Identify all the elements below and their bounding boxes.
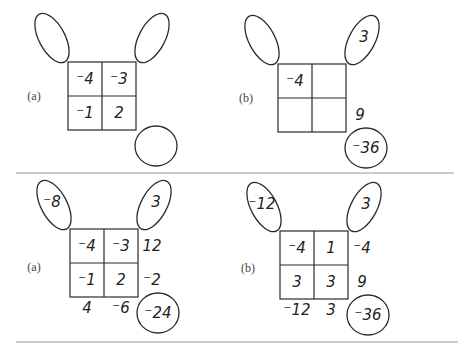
grid-cell: 3 bbox=[326, 273, 336, 291]
oval-left bbox=[28, 8, 76, 68]
panel-top-a: (a)⁻4⁻3⁻12 bbox=[27, 8, 177, 166]
oval-right-value: 3 bbox=[359, 28, 369, 46]
grid-cell: ⁻1 bbox=[78, 271, 95, 289]
oval-bottom-value: ⁻36 bbox=[354, 306, 381, 324]
grid-cell: 3 bbox=[292, 273, 302, 291]
col-sum: ⁻6 bbox=[112, 299, 129, 317]
puzzle-figure: (a)⁻4⁻3⁻12 (b)⁻43⁻369 (a)⁻4⁻3⁻12⁻83⁻2412… bbox=[0, 0, 469, 355]
row-product: 9 bbox=[357, 273, 367, 291]
grid-cell: 1 bbox=[326, 239, 336, 257]
oval-left-value: ⁻8 bbox=[43, 193, 60, 211]
grid-cell: ⁻4 bbox=[286, 72, 303, 90]
oval-right bbox=[128, 8, 176, 68]
grid-cell: ⁻4 bbox=[78, 237, 95, 255]
row-product: 12 bbox=[142, 237, 161, 255]
col-sum: 3 bbox=[326, 301, 336, 319]
panel-label: (a) bbox=[27, 89, 40, 103]
grid-cell: 2 bbox=[116, 271, 126, 289]
oval-left-value: ⁻12 bbox=[248, 195, 275, 213]
oval-bottom bbox=[135, 126, 177, 166]
oval-right-value: 3 bbox=[151, 193, 161, 211]
oval-bottom-value: ⁻36 bbox=[352, 139, 379, 157]
panel-bottom-a: (a)⁻4⁻3⁻12⁻83⁻2412⁻24⁻6 bbox=[27, 175, 179, 333]
row-product: 9 bbox=[355, 106, 365, 124]
panel-label: (b) bbox=[239, 91, 253, 105]
panel-label: (a) bbox=[27, 260, 40, 274]
oval-right-value: 3 bbox=[361, 195, 371, 213]
grid-cell: ⁻1 bbox=[76, 104, 93, 122]
row-product: ⁻2 bbox=[143, 271, 160, 289]
grid-cell: ⁻4 bbox=[76, 70, 93, 88]
col-sum: ⁻12 bbox=[283, 301, 310, 319]
oval-left bbox=[238, 10, 286, 70]
panel-label: (b) bbox=[241, 261, 255, 275]
grid-cell: ⁻4 bbox=[288, 239, 305, 257]
grid-cell: ⁻3 bbox=[110, 70, 127, 88]
oval-bottom-value: ⁻24 bbox=[144, 304, 171, 322]
row-product: ⁻4 bbox=[353, 239, 370, 257]
panel-top-b: (b)⁻43⁻369 bbox=[238, 10, 387, 168]
grid-cell: ⁻3 bbox=[112, 237, 129, 255]
grid-cell: 2 bbox=[114, 104, 124, 122]
col-sum: 4 bbox=[82, 299, 92, 317]
panel-bottom-b: (b)⁻4133⁻123⁻36⁻49⁻123 bbox=[240, 177, 389, 335]
